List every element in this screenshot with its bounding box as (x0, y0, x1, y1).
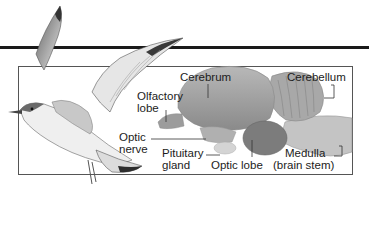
label-medulla-line1: Medulla (273, 147, 334, 159)
label-cerebrum: Cerebrum (180, 71, 231, 83)
label-pituitary-line1: Pituitary (162, 147, 204, 159)
label-olfactory-lobe: Olfactory lobe (137, 90, 183, 114)
label-pituitary-gland: Pituitary gland (162, 147, 204, 171)
label-optic-nerve: Optic nerve (119, 131, 148, 155)
label-medulla: Medulla (brain stem) (273, 147, 334, 171)
label-optic-nerve-line1: Optic (119, 131, 148, 143)
label-olfactory-line1: Olfactory (137, 90, 183, 102)
label-medulla-line2: (brain stem) (273, 159, 334, 171)
label-olfactory-line2: lobe (137, 102, 183, 114)
label-optic-nerve-line2: nerve (119, 143, 148, 155)
label-optic-lobe: Optic lobe (211, 159, 263, 171)
label-cerebellum: Cerebellum (287, 71, 346, 83)
label-pituitary-line2: gland (162, 159, 204, 171)
